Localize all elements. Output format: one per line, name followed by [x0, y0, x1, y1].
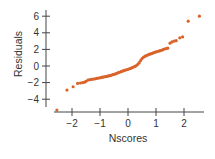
y-tick-label: 6	[33, 11, 39, 22]
data-point	[65, 88, 68, 91]
y-tick-label: −4	[28, 94, 40, 105]
data-point	[178, 36, 181, 39]
plot-area	[55, 15, 201, 112]
data-point	[198, 15, 201, 18]
x-tick-label: 1	[153, 118, 159, 129]
x-axis: −2−1012	[54, 108, 204, 129]
data-point	[72, 85, 75, 88]
data-point	[181, 35, 184, 38]
x-tick-label: −2	[66, 118, 78, 129]
x-tick-label: 2	[181, 118, 187, 129]
qq-plot: −4−20246 −2−1012 Residuals Nscores	[0, 0, 215, 159]
y-tick-label: 2	[33, 44, 39, 55]
y-tick-label: −2	[28, 77, 40, 88]
x-axis-label: Nscores	[109, 132, 148, 144]
data-point	[175, 39, 178, 42]
data-point	[187, 20, 190, 23]
y-axis-label: Residuals	[12, 31, 24, 77]
y-tick-label: 0	[33, 61, 39, 72]
y-tick-label: 4	[33, 27, 39, 38]
x-tick-label: 0	[125, 118, 131, 129]
y-axis: −4−20246	[28, 10, 50, 107]
x-tick-label: −1	[94, 118, 106, 129]
data-point	[166, 47, 169, 50]
data-point	[76, 82, 79, 85]
data-point	[55, 108, 58, 111]
